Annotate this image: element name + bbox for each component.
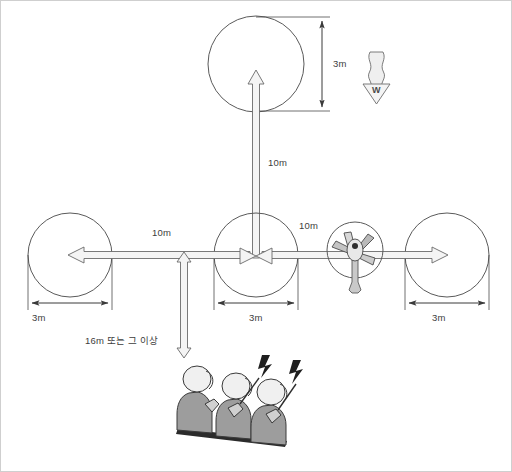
label-left-circle-diameter: 3m [32,313,46,323]
label-horizontal-distance-left: 10m [152,228,171,238]
diagram-svg [0,0,512,472]
wind-marker-letter: W [372,85,381,95]
label-top-circle-diameter: 3m [333,59,347,69]
label-horizontal-distance-right: 10m [299,221,318,231]
label-center-circle-diameter: 3m [249,313,263,323]
label-vertical-distance-top: 10m [268,158,287,168]
label-right-circle-diameter: 3m [432,313,446,323]
diagram-canvas: 3m W 10m 10m 10m 3m 3m 3m 16m 또는 그 이상 [0,0,512,472]
label-clearance-distance: 16m 또는 그 이상 [85,336,159,346]
